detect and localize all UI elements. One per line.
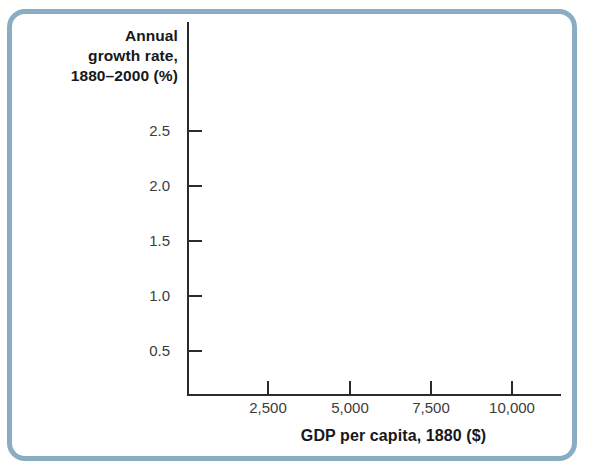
x-axis-tick (349, 381, 351, 394)
y-axis-tick-label: 2.5 (110, 123, 170, 138)
x-axis-tick-label: 5,000 (310, 400, 390, 415)
x-axis-line (187, 394, 561, 396)
x-axis-tick (267, 381, 269, 394)
figure: 2.5 2.0 1.5 1.0 0.5 2,500 5,000 7,500 10… (0, 0, 597, 469)
x-axis-tick (430, 381, 432, 394)
y-axis-tick-label: 1.0 (110, 288, 170, 303)
x-axis-tick-label: 10,000 (472, 400, 552, 415)
y-axis-tick (189, 295, 202, 297)
y-axis-line (187, 22, 189, 396)
x-axis-tick-label: 7,500 (391, 400, 471, 415)
y-axis-title-line-2: growth rate, (10, 46, 178, 66)
y-axis-tick (189, 240, 202, 242)
y-axis-title-line-3: 1880–2000 (%) (10, 66, 178, 86)
x-axis-tick (511, 381, 513, 394)
y-axis-tick (189, 130, 202, 132)
x-axis-tick-label: 2,500 (228, 400, 308, 415)
y-axis-title-line-1: Annual (10, 26, 178, 46)
y-axis-tick-label: 1.5 (110, 233, 170, 248)
y-axis-tick (189, 185, 202, 187)
y-axis-tick-label: 2.0 (110, 178, 170, 193)
x-axis-title: GDP per capita, 1880 ($) (226, 427, 561, 445)
y-axis-tick (189, 350, 202, 352)
y-axis-title: Annual growth rate, 1880–2000 (%) (10, 26, 178, 86)
chart-plot-area: 2.5 2.0 1.5 1.0 0.5 2,500 5,000 7,500 10… (0, 0, 597, 469)
y-axis-tick-label: 0.5 (110, 343, 170, 358)
